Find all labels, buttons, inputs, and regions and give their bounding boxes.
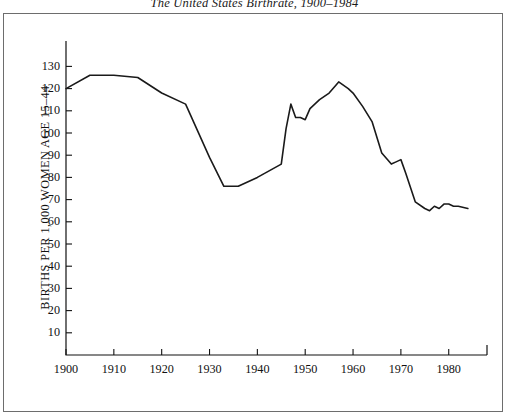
x-tick-label: 1950 xyxy=(282,363,328,375)
data-line-us-birthrate xyxy=(66,75,468,210)
y-tick-label: 40 xyxy=(28,260,60,272)
x-tick-label: 1920 xyxy=(139,363,185,375)
x-tick-label: 1960 xyxy=(330,363,376,375)
y-tick-label: 60 xyxy=(28,215,60,227)
axis-lines xyxy=(66,41,487,355)
y-tick-label: 110 xyxy=(28,104,60,116)
y-tick-label: 50 xyxy=(28,238,60,250)
y-tick-label: 80 xyxy=(28,171,60,183)
y-tick-label: 20 xyxy=(28,304,60,316)
series-group xyxy=(66,75,468,210)
y-tick-label: 90 xyxy=(28,149,60,161)
x-tick-label: 1900 xyxy=(43,363,89,375)
y-tick-marks xyxy=(66,66,72,332)
x-tick-label: 1940 xyxy=(234,363,280,375)
y-tick-label: 100 xyxy=(28,127,60,139)
axes-group xyxy=(66,41,487,355)
x-tick-label: 1910 xyxy=(91,363,137,375)
y-tick-label: 130 xyxy=(28,60,60,72)
plot-area: BIRTHS PER 1,000 WOMEN AGE 15–44 1020304… xyxy=(0,0,509,418)
x-tick-marks xyxy=(66,349,449,355)
x-tick-label: 1930 xyxy=(187,363,233,375)
y-tick-label: 70 xyxy=(28,193,60,205)
x-tick-label: 1970 xyxy=(378,363,424,375)
y-tick-label: 120 xyxy=(28,82,60,94)
x-tick-label: 1980 xyxy=(426,363,472,375)
chart-canvas xyxy=(0,0,509,418)
y-tick-label: 10 xyxy=(28,326,60,338)
y-tick-label: 30 xyxy=(28,282,60,294)
